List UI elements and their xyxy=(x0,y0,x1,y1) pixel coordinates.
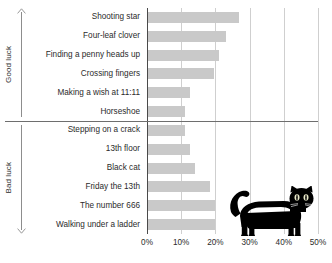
bar xyxy=(147,163,195,174)
group-label-bad-luck: Bad luck xyxy=(4,162,16,193)
category-label: Walking under a ladder xyxy=(56,219,140,231)
category-label: Shooting star xyxy=(92,11,140,23)
bar xyxy=(147,50,219,61)
category-label: Making a wish at 11:11 xyxy=(57,87,140,99)
bar xyxy=(147,68,214,79)
group-arrow-up xyxy=(16,8,27,121)
category-label: Crossing fingers xyxy=(81,68,140,80)
arrow-shaft xyxy=(21,125,22,230)
category-label: Friday the 13th xyxy=(85,181,140,193)
x-axis-tick-label: 30% xyxy=(241,238,257,247)
x-axis-tick-label: 50% xyxy=(310,238,326,247)
bar xyxy=(147,219,215,230)
category-label: Black cat xyxy=(107,162,140,174)
group-divider xyxy=(5,121,318,122)
category-label: The number 666 xyxy=(80,200,140,212)
group-good-luck: Good luck xyxy=(4,8,40,121)
bar xyxy=(147,12,239,23)
x-axis-tick-label: 20% xyxy=(207,238,223,247)
category-label: Horseshoe xyxy=(100,106,140,118)
bar xyxy=(147,200,215,211)
x-axis-tick-label: 40% xyxy=(276,238,292,247)
category-label: Four-leaf clover xyxy=(83,30,140,42)
group-label-good-luck: Good luck xyxy=(4,46,16,83)
category-label: 13th floor xyxy=(106,143,140,155)
arrow-shaft xyxy=(21,12,22,117)
bar xyxy=(147,106,185,117)
category-label: Finding a penny heads up xyxy=(46,49,140,61)
group-arrow-down xyxy=(16,121,27,234)
category-label: Stepping on a crack xyxy=(68,124,140,136)
bar xyxy=(147,125,185,136)
chevron-up-icon xyxy=(17,8,26,14)
x-axis-tick-label: 10% xyxy=(173,238,189,247)
bar xyxy=(147,31,226,42)
x-axis-tick-label: 0% xyxy=(141,238,153,247)
chevron-down-icon xyxy=(17,228,26,234)
black-cat-icon xyxy=(228,186,320,236)
bar xyxy=(147,87,190,98)
bar xyxy=(147,181,210,192)
bar xyxy=(147,144,190,155)
bar-chart: Good luck Bad luck Shooting starFour-lea… xyxy=(0,0,332,263)
group-bad-luck: Bad luck xyxy=(4,121,40,234)
